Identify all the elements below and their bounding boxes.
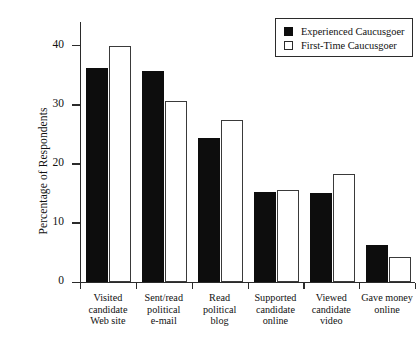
bar xyxy=(165,101,187,282)
chart-legend: Experienced Caucusgoer First-Time Caucus… xyxy=(275,18,413,57)
plot-area xyxy=(80,22,415,282)
legend-entry-first-time: First-Time Caucusgoer xyxy=(284,38,397,52)
bar-group xyxy=(86,22,131,282)
y-axis-title: Percentage of Respondents xyxy=(37,56,49,286)
bar xyxy=(254,192,276,282)
bar xyxy=(389,257,411,282)
x-axis-category-label-line: video xyxy=(297,315,365,327)
y-axis-tick-label: 40 xyxy=(18,38,64,50)
bar-group xyxy=(142,22,187,282)
legend-label: First-Time Caucusgoer xyxy=(301,40,397,51)
bar xyxy=(333,174,355,282)
legend-entry-experienced: Experienced Caucusgoer xyxy=(284,24,405,38)
bar-group xyxy=(366,22,411,282)
bar-group xyxy=(198,22,243,282)
legend-swatch-hollow-square-icon xyxy=(284,41,293,50)
y-axis-tick-label: 0 xyxy=(18,274,64,286)
y-axis-tick-label: 20 xyxy=(18,156,64,168)
bar-group xyxy=(310,22,355,282)
x-axis-tick xyxy=(415,283,416,289)
bar xyxy=(109,46,131,282)
x-axis-tick xyxy=(303,283,304,289)
x-axis-category-label-line: Gave money xyxy=(353,292,420,304)
bar-group xyxy=(254,22,299,282)
x-axis-tick xyxy=(80,283,81,289)
bar xyxy=(366,245,388,282)
x-axis-tick xyxy=(136,283,137,289)
x-axis-tick xyxy=(359,283,360,289)
x-axis-category-label: Gave moneyonline xyxy=(353,292,420,315)
y-axis-tick-label: 10 xyxy=(18,215,64,227)
legend-label: Experienced Caucusgoer xyxy=(301,26,405,37)
y-axis-tick-label: 30 xyxy=(18,97,64,109)
legend-swatch-filled-square-icon xyxy=(284,27,293,36)
bar xyxy=(86,68,108,282)
bar xyxy=(142,71,164,282)
bar-chart: Percentage of Respondents 010203040 Visi… xyxy=(0,0,420,341)
x-axis-category-label-line: online xyxy=(353,304,420,316)
bar xyxy=(198,138,220,282)
x-axis-tick xyxy=(192,283,193,289)
bar xyxy=(221,120,243,282)
bar xyxy=(277,190,299,282)
x-axis-tick xyxy=(248,283,249,289)
bar xyxy=(310,193,332,282)
